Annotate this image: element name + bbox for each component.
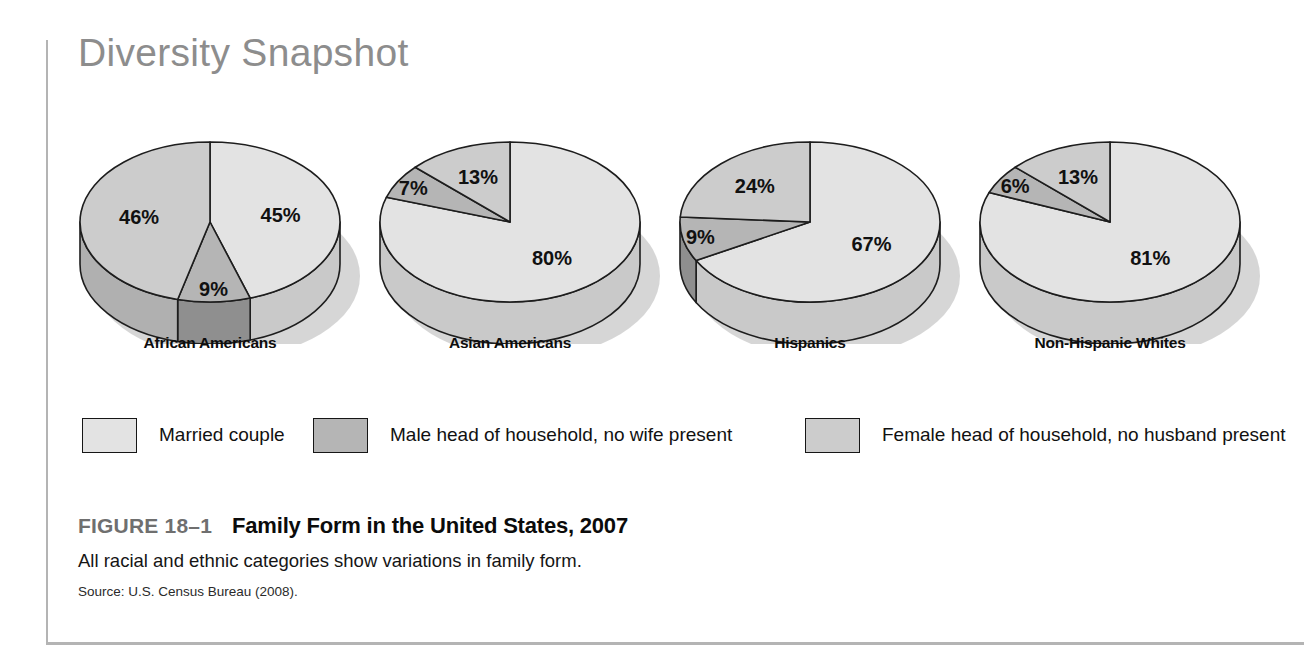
legend-item-2: Male head of household, no wife present: [313, 412, 732, 458]
legend-label: Married couple: [159, 424, 285, 446]
slice-value-label: 6%: [1001, 175, 1030, 197]
left-rule: [46, 40, 48, 644]
pie-chart-caption: Hispanics: [660, 334, 960, 352]
figure-caption: FIGURE 18–1 Family Form in the United St…: [78, 513, 1258, 599]
slice-value-label: 24%: [735, 175, 775, 197]
figure-container: Diversity Snapshot 45%9%46%African Ameri…: [0, 0, 1306, 669]
slice-value-label: 45%: [261, 204, 301, 226]
legend-item-3: Female head of household, no husband pre…: [805, 412, 1286, 458]
slice-value-label: 9%: [686, 226, 715, 248]
legend-item-1: Married couple: [82, 412, 285, 458]
legend-swatch: [82, 418, 137, 453]
legend-swatch: [313, 418, 368, 453]
caption-heading: FIGURE 18–1 Family Form in the United St…: [78, 513, 1258, 539]
slice-value-label: 9%: [199, 278, 228, 300]
legend-label: Female head of household, no husband pre…: [882, 424, 1286, 446]
slice-value-label: 80%: [532, 247, 572, 269]
figure-title: Family Form in the United States, 2007: [232, 513, 628, 539]
slice-value-label: 67%: [851, 233, 891, 255]
pie-chart-3: 67%9%24%Hispanics: [660, 104, 960, 364]
slice-value-label: 46%: [119, 206, 159, 228]
pie-chart-4: 81%6%13%Non-Hispanic Whites: [960, 104, 1260, 364]
legend-swatch: [805, 418, 860, 453]
figure-source: Source: U.S. Census Bureau (2008).: [78, 584, 1258, 599]
pie-chart-2: 80%7%13%Asian Americans: [360, 104, 660, 364]
pie-chart-1: 45%9%46%African Americans: [60, 104, 360, 364]
slice-value-label: 7%: [399, 177, 428, 199]
pie-chart-caption: Asian Americans: [360, 334, 660, 352]
pie-chart-caption: Non-Hispanic Whites: [960, 334, 1260, 352]
legend-label: Male head of household, no wife present: [390, 424, 732, 446]
figure-number: FIGURE 18–1: [78, 514, 212, 538]
slice-value-label: 13%: [1058, 166, 1098, 188]
bottom-rule: [46, 642, 1304, 645]
snapshot-title: Diversity Snapshot: [78, 31, 409, 75]
pie-chart-caption: African Americans: [60, 334, 360, 352]
chart-legend: Married coupleMale head of household, no…: [0, 412, 1306, 458]
figure-subtitle: All racial and ethnic categories show va…: [78, 550, 1258, 572]
slice-value-label: 13%: [458, 166, 498, 188]
pie-chart-row: 45%9%46%African Americans80%7%13%Asian A…: [60, 104, 1290, 364]
slice-value-label: 81%: [1130, 247, 1170, 269]
